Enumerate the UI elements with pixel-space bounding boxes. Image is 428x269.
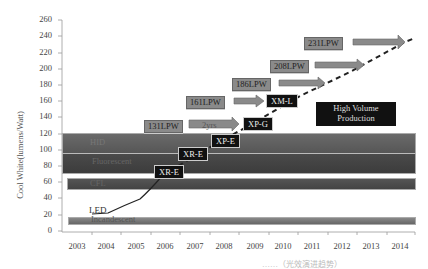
device-xp-e: XP-E (211, 134, 240, 148)
high-volume-production-label: High Volume Production (316, 102, 396, 126)
arrow-icon (279, 77, 325, 89)
arrow-icon (234, 95, 264, 107)
arrow-icon (353, 35, 405, 49)
device-xr-e-2006: XR-E (154, 165, 184, 179)
arrow-icon (315, 59, 364, 71)
figure-caption: ……（光效演进趋势） (262, 258, 342, 269)
device-xp-g: XP-G (243, 117, 273, 131)
device-xr-e-2007: XR-E (178, 147, 208, 161)
device-xm-l: XM-L (266, 94, 298, 108)
interval-label: 2yrs (202, 120, 217, 130)
